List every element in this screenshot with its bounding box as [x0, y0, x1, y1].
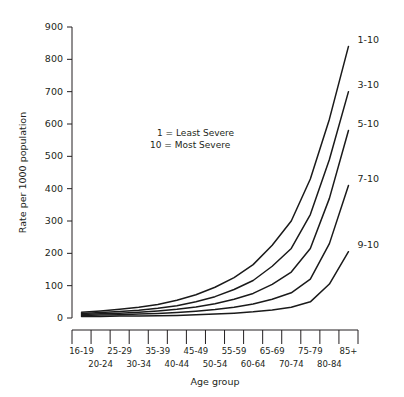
y-tick-label: 100	[45, 280, 63, 291]
series-label-5-10: 5-10	[357, 118, 379, 129]
x-tick-label: 30-34	[126, 359, 151, 369]
x-tick-label: 50-54	[203, 359, 228, 369]
series-label-7-10: 7-10	[357, 173, 379, 184]
severity-note-line-2: 10 = Most Severe	[150, 140, 231, 150]
series-label-9-10: 9-10	[357, 239, 379, 250]
x-tick-label: 60-64	[241, 359, 266, 369]
series-label-3-10: 3-10	[357, 79, 379, 90]
y-tick-label: 900	[45, 21, 63, 32]
x-tick-label: 80-84	[317, 359, 342, 369]
y-axis-title: Rate per 1000 population	[17, 112, 28, 233]
x-tick-label: 70-74	[279, 359, 304, 369]
x-axis-tick-labels: 16-1920-2425-2930-3435-3940-4445-4950-54…	[69, 346, 357, 369]
x-tick-label: 75-79	[298, 346, 323, 356]
y-tick-label: 400	[45, 183, 63, 194]
x-tick-label: 20-24	[88, 359, 113, 369]
y-axis-ticks: 0100200300400500600700800900	[45, 21, 72, 323]
x-tick-label: 16-19	[69, 346, 94, 356]
x-axis	[72, 330, 358, 344]
x-tick-label: 55-59	[222, 346, 247, 356]
y-tick-label: 200	[45, 247, 63, 258]
x-axis-title: Age group	[191, 376, 240, 387]
y-tick-label: 700	[45, 86, 63, 97]
x-tick-label: 40-44	[165, 359, 190, 369]
chart-figure: 0100200300400500600700800900Rate per 100…	[0, 0, 404, 397]
x-tick-label: 65-69	[260, 346, 285, 356]
y-tick-label: 0	[57, 312, 63, 323]
y-tick-label: 600	[45, 118, 63, 129]
severity-note-line-1: 1 = Least Severe	[157, 128, 235, 138]
y-tick-label: 800	[45, 53, 63, 64]
x-tick-label: 25-29	[107, 346, 132, 356]
line-chart: 0100200300400500600700800900Rate per 100…	[0, 0, 404, 397]
x-tick-label: 45-49	[184, 346, 209, 356]
series-line-9-10	[82, 252, 349, 317]
severity-note: 1 = Least Severe10 = Most Severe	[150, 128, 235, 150]
series-group: 1-103-105-107-109-10	[82, 34, 379, 316]
series-label-1-10: 1-10	[357, 34, 379, 45]
x-tick-label: 85+	[339, 346, 357, 356]
series-line-1-10	[82, 46, 349, 312]
y-tick-label: 500	[45, 150, 63, 161]
y-tick-label: 300	[45, 215, 63, 226]
x-tick-label: 35-39	[145, 346, 170, 356]
